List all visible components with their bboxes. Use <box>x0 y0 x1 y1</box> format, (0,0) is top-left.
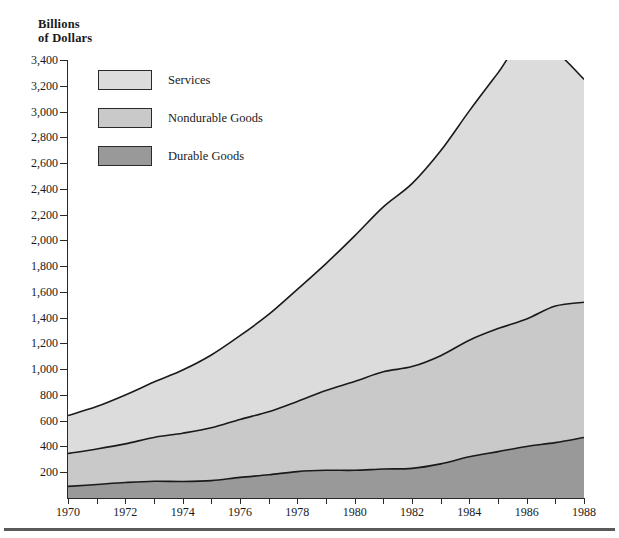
x-tick-label: 1970 <box>45 505 91 519</box>
x-tick-1977 <box>269 498 270 504</box>
y-tick-label: 2,800 <box>8 131 58 143</box>
x-tick-1970 <box>68 498 69 504</box>
x-tick-label: 1988 <box>561 505 607 519</box>
x-tick-1986 <box>527 498 528 504</box>
y-tick-label: 800 <box>8 389 58 401</box>
legend-swatch-icon <box>98 146 152 166</box>
y-tick-label: 3,000 <box>8 106 58 118</box>
y-tick-label: 1,000 <box>8 363 58 375</box>
y-tick-200 <box>60 472 68 473</box>
x-tick-label: 1982 <box>389 505 435 519</box>
y-tick-800 <box>60 395 68 396</box>
legend-item-label: Services <box>168 73 210 87</box>
x-tick-label: 1976 <box>217 505 263 519</box>
y-tick-label: 1,600 <box>8 286 58 298</box>
x-tick-label: 1978 <box>274 505 320 519</box>
x-tick-1984 <box>469 498 470 504</box>
footer-rule <box>4 528 615 531</box>
y-tick-2800 <box>60 137 68 138</box>
x-tick-1973 <box>154 498 155 504</box>
y-tick-2400 <box>60 189 68 190</box>
y-tick-label: 600 <box>8 415 58 427</box>
x-tick-1980 <box>355 498 356 504</box>
legend-swatch-icon <box>98 70 152 90</box>
x-tick-label: 1974 <box>160 505 206 519</box>
x-tick-1985 <box>498 498 499 504</box>
y-axis-title: Billions of Dollars <box>38 18 92 45</box>
y-tick-600 <box>60 421 68 422</box>
legend-item-nondurable-goods[interactable]: Nondurable Goods <box>98 107 263 129</box>
x-tick-1988 <box>584 498 585 504</box>
y-tick-1800 <box>60 266 68 267</box>
y-tick-label: 2,600 <box>8 157 58 169</box>
y-tick-label: 3,200 <box>8 80 58 92</box>
y-tick-3200 <box>60 86 68 87</box>
chart-root: Billions of Dollars 2004006008001,0001,2… <box>0 0 619 538</box>
x-tick-label: 1980 <box>332 505 378 519</box>
y-tick-label: 3,400 <box>8 54 58 66</box>
x-tick-1975 <box>211 498 212 504</box>
x-tick-1987 <box>555 498 556 504</box>
y-tick-1000 <box>60 369 68 370</box>
y-tick-label: 200 <box>8 466 58 478</box>
y-tick-2200 <box>60 215 68 216</box>
x-tick-1978 <box>297 498 298 504</box>
x-tick-1971 <box>97 498 98 504</box>
x-tick-label: 1986 <box>504 505 550 519</box>
chart-legend: ServicesNondurable GoodsDurable Goods <box>98 69 263 183</box>
y-tick-400 <box>60 446 68 447</box>
y-tick-label: 1,800 <box>8 260 58 272</box>
y-tick-3000 <box>60 112 68 113</box>
legend-item-label: Durable Goods <box>168 149 244 163</box>
y-tick-label: 400 <box>8 440 58 452</box>
x-tick-1982 <box>412 498 413 504</box>
legend-item-services[interactable]: Services <box>98 69 263 91</box>
x-tick-1974 <box>183 498 184 504</box>
x-tick-1972 <box>125 498 126 504</box>
y-tick-label: 2,000 <box>8 234 58 246</box>
y-tick-2000 <box>60 240 68 241</box>
x-tick-1983 <box>441 498 442 504</box>
x-tick-label: 1972 <box>102 505 148 519</box>
x-tick-1981 <box>383 498 384 504</box>
y-tick-label: 1,200 <box>8 337 58 349</box>
y-tick-label: 2,400 <box>8 183 58 195</box>
y-tick-1400 <box>60 318 68 319</box>
legend-item-durable-goods[interactable]: Durable Goods <box>98 145 263 167</box>
x-tick-label: 1984 <box>446 505 492 519</box>
x-tick-1976 <box>240 498 241 504</box>
y-tick-label: 1,400 <box>8 312 58 324</box>
legend-item-label: Nondurable Goods <box>168 111 263 125</box>
y-tick-1600 <box>60 292 68 293</box>
y-tick-3400 <box>60 60 68 61</box>
y-tick-2600 <box>60 163 68 164</box>
x-tick-1979 <box>326 498 327 504</box>
legend-swatch-icon <box>98 108 152 128</box>
y-tick-label: 2,200 <box>8 209 58 221</box>
y-tick-1200 <box>60 343 68 344</box>
cropped-header-text <box>0 0 619 4</box>
